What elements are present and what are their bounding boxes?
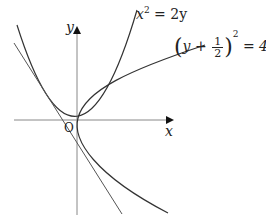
diagram-canvas: y x O x2 = 2y (y + 12)2 = 4px [0,0,266,220]
origin-label: O [64,122,74,134]
eq2-y: y [183,38,191,54]
equation-sideways-parabola: (y + 12)2 = 4px [174,30,266,59]
y-axis-label: y [66,20,74,34]
fraction-denominator: 2 [212,48,223,59]
eq2-rest: = 4px [238,38,266,54]
x-axis-label: x [165,124,173,138]
fraction-numerator: 1 [212,36,223,48]
eq2-plus: + [191,38,212,54]
eq1-rest: = 2y [150,6,187,22]
open-paren: ( [174,34,183,59]
fraction-half: 12 [212,36,223,59]
parabola-sideways-curve [77,45,205,213]
close-paren: ) [224,34,233,59]
eq1-x: x [136,6,144,22]
equation-upward-parabola: x2 = 2y [136,6,187,21]
